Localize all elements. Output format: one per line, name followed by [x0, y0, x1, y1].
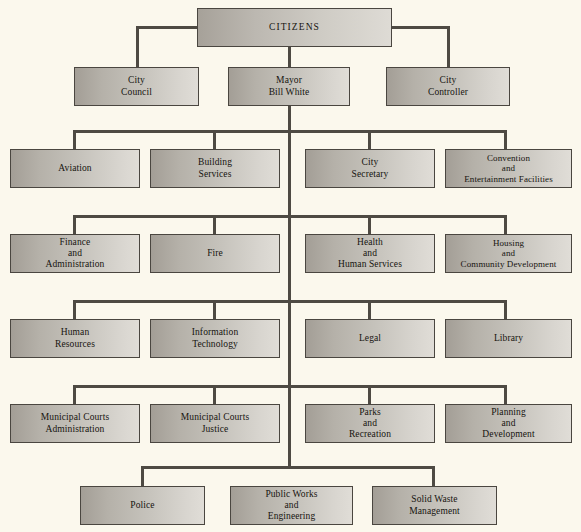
node-city-controller[interactable]: City Controller — [386, 67, 510, 106]
connector-convention-drop — [504, 130, 507, 150]
node-building-services[interactable]: Building Services — [150, 149, 280, 188]
node-mayor[interactable]: Mayor Bill White — [228, 67, 350, 106]
connector-library-drop — [504, 300, 507, 320]
node-legal-label: Legal — [309, 333, 431, 344]
node-parks-recreation-label: Parks and Recreation — [309, 407, 431, 441]
node-mayor-label: Mayor Bill White — [232, 75, 346, 97]
connector-building-services-drop — [213, 130, 216, 150]
node-information-technology[interactable]: Information Technology — [150, 319, 280, 358]
connector-citizens-right-horizontal — [390, 26, 450, 29]
connector-health-drop — [368, 215, 371, 235]
connector-municipal-courts-justice-drop — [213, 385, 216, 405]
connector-housing-drop — [504, 215, 507, 235]
connector-city-secretary-drop — [368, 130, 371, 150]
connector-row4-bar — [73, 215, 507, 218]
node-legal[interactable]: Legal — [305, 319, 435, 358]
node-building-services-label: Building Services — [154, 157, 276, 179]
node-solid-waste-management[interactable]: Solid Waste Management — [372, 486, 497, 525]
node-citizens[interactable]: CITIZENS — [197, 8, 392, 47]
node-health-human-services[interactable]: Health and Human Services — [305, 234, 435, 273]
connector-municipal-courts-admin-drop — [73, 385, 76, 405]
connector-parks-drop — [368, 385, 371, 405]
node-parks-recreation[interactable]: Parks and Recreation — [305, 404, 435, 443]
connector-legal-drop — [368, 300, 371, 320]
node-city-council[interactable]: City Council — [74, 67, 199, 106]
connector-citizens-mayor — [288, 46, 291, 68]
node-human-resources[interactable]: Human Resources — [10, 319, 140, 358]
connector-row7-bar — [141, 466, 435, 469]
connector-citizens-left-horizontal — [137, 26, 199, 29]
node-public-works-engineering-label: Public Works and Engineering — [234, 489, 349, 523]
node-municipal-courts-justice-label: Municipal Courts Justice — [154, 412, 276, 434]
node-housing-community-development-label: Housing and Community Development — [449, 238, 568, 270]
node-municipal-courts-administration-label: Municipal Courts Administration — [14, 412, 136, 434]
node-city-controller-label: City Controller — [390, 75, 506, 97]
connector-finance-drop — [73, 215, 76, 235]
node-public-works-engineering[interactable]: Public Works and Engineering — [230, 486, 353, 525]
node-library-label: Library — [449, 333, 568, 344]
node-police[interactable]: Police — [80, 486, 205, 525]
node-city-secretary[interactable]: City Secretary — [305, 149, 435, 188]
connector-solid-waste-drop — [432, 466, 435, 487]
connector-fire-drop — [213, 215, 216, 235]
node-information-technology-label: Information Technology — [154, 327, 276, 349]
node-solid-waste-management-label: Solid Waste Management — [376, 494, 493, 516]
org-chart: CITIZENS City Council Mayor Bill White C… — [0, 0, 581, 532]
node-convention-entertainment-facilities-label: Convention and Entertainment Facilities — [449, 153, 568, 185]
node-finance-administration-label: Finance and Administration — [14, 237, 136, 271]
connector-row5-bar — [73, 300, 507, 303]
connector-mayor-spine — [288, 105, 291, 467]
connector-human-resources-drop — [73, 300, 76, 320]
node-citizens-label: CITIZENS — [201, 22, 388, 33]
node-aviation-label: Aviation — [14, 163, 136, 174]
connector-city-controller-drop — [447, 26, 450, 68]
connector-information-technology-drop — [213, 300, 216, 320]
node-finance-administration[interactable]: Finance and Administration — [10, 234, 140, 273]
node-municipal-courts-justice[interactable]: Municipal Courts Justice — [150, 404, 280, 443]
node-housing-community-development[interactable]: Housing and Community Development — [445, 234, 572, 273]
node-city-council-label: City Council — [78, 75, 195, 97]
connector-row3-bar — [73, 130, 507, 133]
node-health-human-services-label: Health and Human Services — [309, 237, 431, 271]
node-library[interactable]: Library — [445, 319, 572, 358]
connector-row6-bar — [73, 385, 507, 388]
node-fire-label: Fire — [154, 248, 276, 259]
connector-city-council-drop — [136, 26, 139, 68]
node-fire[interactable]: Fire — [150, 234, 280, 273]
connector-police-drop — [141, 466, 144, 487]
node-city-secretary-label: City Secretary — [309, 157, 431, 179]
node-aviation[interactable]: Aviation — [10, 149, 140, 188]
node-planning-development[interactable]: Planning and Development — [445, 404, 572, 443]
node-police-label: Police — [84, 500, 201, 511]
connector-aviation-drop — [73, 130, 76, 150]
node-planning-development-label: Planning and Development — [449, 407, 568, 441]
node-convention-entertainment-facilities[interactable]: Convention and Entertainment Facilities — [445, 149, 572, 188]
connector-planning-drop — [504, 385, 507, 405]
node-human-resources-label: Human Resources — [14, 327, 136, 349]
node-municipal-courts-administration[interactable]: Municipal Courts Administration — [10, 404, 140, 443]
